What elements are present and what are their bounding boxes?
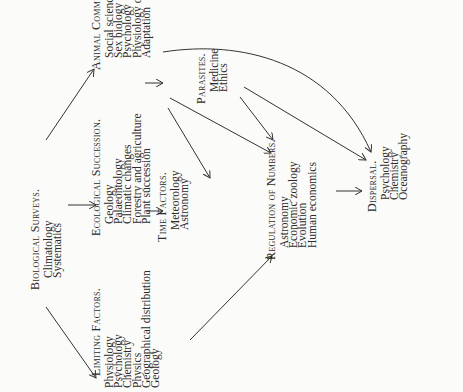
node-item: Human economics xyxy=(308,139,317,260)
node-biological-surveys: Biological Surveys. Climatology Systemat… xyxy=(30,189,62,290)
arrow-surveys-to-communities xyxy=(46,69,94,140)
arrow-communities-to-regulation xyxy=(170,98,271,153)
node-heading: Dispersal. xyxy=(367,133,377,212)
arrow-limiting-to-regulation xyxy=(190,256,272,340)
node-animal-communities: Animal Communities. Social science Sex b… xyxy=(91,0,151,70)
node-heading: Limiting Factors. xyxy=(91,270,101,388)
diagram-canvas: Biological Surveys. Climatology Systemat… xyxy=(0,0,463,392)
arrow-parasites-to-regulation xyxy=(240,97,273,140)
node-time-factors: Time Factors. Meteorology Astronomy xyxy=(157,171,189,242)
node-item: Astronomy xyxy=(180,171,189,242)
node-item: Oceanography xyxy=(399,133,408,212)
node-limiting-factors: Limiting Factors. Physiology Psychology … xyxy=(91,270,160,388)
node-dispersal: Dispersal. Psychology Chemistry Oceanogr… xyxy=(367,133,409,212)
node-heading: Time Factors. xyxy=(157,171,167,242)
node-heading: Biological Surveys. xyxy=(30,189,40,290)
node-ecological-succession: Ecological Succession. Geology Palaeonto… xyxy=(91,114,151,237)
arrow-communities-to-time xyxy=(168,108,210,178)
node-regulation-of-numbers: Regulation of Numbers. Astronomy Economi… xyxy=(266,139,317,260)
node-heading: Parasites. xyxy=(196,49,206,104)
node-item: Geology xyxy=(151,270,160,388)
node-parasites: Parasites. Medicine Ethics xyxy=(196,49,228,104)
node-heading: Animal Communities. xyxy=(91,0,101,70)
node-item: Ethics xyxy=(219,49,228,104)
node-item: Systematics xyxy=(53,189,62,290)
node-heading: Regulation of Numbers. xyxy=(266,139,276,260)
node-heading: Ecological Succession. xyxy=(91,114,101,237)
node-item: Adaptation xyxy=(142,0,151,70)
node-item: Plant succession xyxy=(142,114,151,237)
